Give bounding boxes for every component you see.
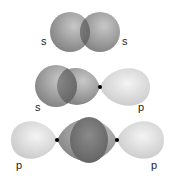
label-p-right: p	[151, 160, 157, 171]
p-orbital-left	[11, 121, 57, 159]
s-p-overlap	[35, 65, 150, 107]
orbital-overlap-diagram	[0, 0, 171, 181]
label-s-left: s	[41, 36, 47, 47]
node-dot	[98, 85, 102, 89]
label-p: p	[138, 102, 144, 113]
node-dot-right	[115, 138, 119, 142]
overlap-core	[70, 117, 108, 163]
s-s-overlap	[50, 12, 120, 52]
node-dot-left	[55, 138, 59, 142]
p-orbital-right	[117, 121, 164, 159]
p-p-overlap	[11, 117, 164, 163]
label-p-left: p	[16, 160, 22, 171]
label-s: s	[35, 102, 41, 113]
label-s-right: s	[122, 36, 128, 47]
